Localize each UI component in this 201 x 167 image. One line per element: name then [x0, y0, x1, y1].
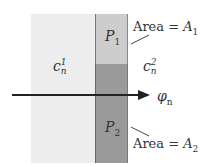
flux-arrow-head-icon [138, 90, 150, 100]
cell-2-label: c2n [143, 58, 157, 76]
p1-label: P1 [105, 29, 120, 47]
area-2-annotation: Area = A2 [133, 137, 198, 154]
flux-label: φn [157, 89, 173, 107]
cell-1-label: c1n [53, 58, 67, 76]
area-2-leader-line [131, 127, 149, 136]
p2-label: P2 [105, 120, 120, 138]
area-1-annotation: Area = A1 [133, 20, 198, 37]
